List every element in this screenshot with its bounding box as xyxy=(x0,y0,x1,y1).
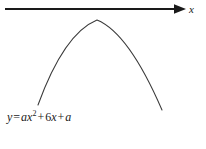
equation-annotation: y=ax2+6x+a xyxy=(7,111,71,123)
equation-equals: = xyxy=(12,110,21,124)
equation-term3: a xyxy=(65,110,71,124)
equation-operator2: + xyxy=(57,110,66,124)
figure-canvas xyxy=(0,0,206,149)
equation-term2-variable: x xyxy=(51,110,56,124)
x-axis-label: x xyxy=(189,4,194,15)
parabola-figure: x y=ax2+6x+a xyxy=(0,0,206,149)
equation-operator1: + xyxy=(36,110,45,124)
figure-background xyxy=(0,0,206,149)
x-axis-label-text: x xyxy=(189,3,194,15)
